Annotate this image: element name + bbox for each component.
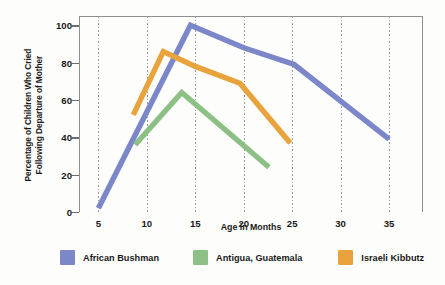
- line-chart-figure: Percentage of Children Who Cried Followi…: [0, 0, 445, 285]
- data-series-layer: [79, 16, 423, 212]
- y-axis-tick-label: 0: [32, 207, 72, 218]
- legend-item[interactable]: African Bushman: [60, 250, 159, 265]
- y-axis-tick-label: 60: [32, 95, 72, 106]
- y-axis-tick-label: 20: [32, 169, 72, 180]
- y-axis-tick: [72, 212, 79, 213]
- chart-legend: African BushmanAntigua, GuatemalaIsraeli…: [40, 250, 430, 265]
- legend-color-swatch: [60, 250, 75, 265]
- legend-item[interactable]: Israeli Kibbutz: [338, 250, 424, 265]
- legend-label: Antigua, Guatemala: [216, 253, 302, 263]
- legend-color-swatch: [338, 250, 353, 265]
- y-axis-tick: [72, 100, 79, 101]
- y-axis-title: Percentage of Children Who Cried Followi…: [23, 15, 45, 215]
- plot-area: 5101520253035: [79, 16, 423, 212]
- y-axis-tick-label: 40: [32, 132, 72, 143]
- y-axis-tick: [72, 25, 79, 26]
- x-axis-title: Age in Months: [79, 222, 423, 232]
- legend-item[interactable]: Antigua, Guatemala: [193, 250, 302, 265]
- y-axis-tick: [72, 175, 79, 176]
- series-line: [135, 93, 269, 168]
- series-line: [98, 25, 389, 208]
- y-axis-tick: [72, 137, 79, 138]
- legend-color-swatch: [193, 250, 208, 265]
- legend-label: Israeli Kibbutz: [361, 253, 424, 263]
- legend-label: African Bushman: [83, 253, 159, 263]
- y-axis-tick-label: 80: [32, 57, 72, 68]
- y-axis-tick: [72, 63, 79, 64]
- y-axis-tick-label: 100: [32, 20, 72, 31]
- y-axis-title-line-1: Percentage of Children Who Cried: [23, 15, 34, 215]
- y-axis-title-line-2: Following Departure of Mother: [34, 15, 45, 215]
